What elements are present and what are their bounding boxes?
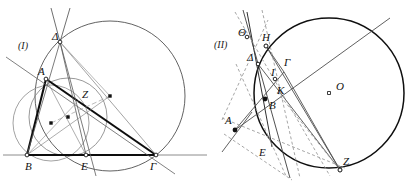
panel-two-label-theta: Θ (238, 26, 246, 38)
panel-two-point-H (264, 44, 268, 48)
panel-one-label-B: B (25, 160, 32, 172)
panel-two-label-H: H (261, 31, 271, 43)
panel-one-label-Z: Z (82, 88, 89, 100)
panel-one-label-A: A (37, 65, 45, 77)
panel-two-point-delta (256, 62, 260, 66)
panel-two-center-marker-O (328, 92, 331, 95)
panel-one-vertex-E (84, 153, 88, 157)
panel-one-center-dot-circumcircle (108, 94, 111, 97)
panel-two-label-B: Β (269, 99, 276, 111)
panel-two-label-gamma: Γ (283, 56, 291, 68)
figure-canvas: (I) Δ A Z B E Γ (0, 0, 417, 191)
panel-one-vertex-A (44, 77, 48, 81)
panel-two-label-Z: Ζ (343, 155, 350, 167)
panel-two-label-A: Α (224, 114, 232, 126)
panel-two-label-O: Ο (336, 80, 344, 92)
panel-two-point-Z (338, 168, 342, 172)
panel-one-tag: (I) (18, 40, 29, 52)
panel-one-vertex-gamma (154, 153, 158, 157)
panel-two-dashed-A-lower (224, 134, 292, 180)
panel-one-line-delta-up-right (60, 8, 70, 42)
panel-one-center-dot-mid-left (49, 121, 52, 124)
panel-two-label-delta: Δ (246, 51, 253, 63)
panel-one-vertex-delta (58, 40, 62, 44)
panel-one-center-dot-mid-right (66, 115, 69, 118)
panel-one-vertex-B (25, 153, 29, 157)
panel-one: (I) Δ A Z B E Γ (3, 8, 207, 176)
geometry-figure: (I) Δ A Z B E Γ (0, 0, 417, 191)
panel-one-label-delta: Δ (51, 30, 58, 42)
panel-two-chord-gamma-Z (284, 72, 340, 170)
panel-two-point-A (233, 128, 238, 133)
panel-two-dashed-A-Z (222, 118, 345, 168)
panel-two-label-E: Ε (258, 146, 266, 158)
panel-one-label-gamma: Γ (149, 160, 157, 172)
panel-two-label-kappa: Κ (276, 84, 285, 96)
panel-two-tag: (II) (214, 39, 228, 51)
panel-two-point-B (263, 97, 268, 102)
panel-two: (II) Θ H Δ Γ Ι Κ Β Ο Α Ε Ζ (214, 10, 404, 180)
panel-one-label-E: E (80, 160, 88, 172)
panel-two-label-iota: Ι (270, 66, 276, 78)
panel-two-chord-delta-Z (258, 64, 340, 170)
